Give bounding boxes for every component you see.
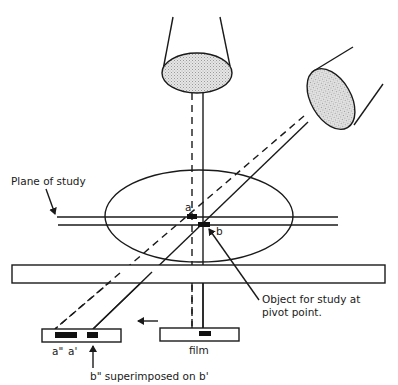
plane-of-study-label: Plane of study <box>11 175 86 187</box>
film-label: film <box>189 344 209 356</box>
tube-side-bottom <box>354 84 383 125</box>
marker-a-double-prime-a-prime <box>55 332 77 338</box>
point-a-marker <box>187 214 197 219</box>
xray-tube-vertical <box>162 17 232 93</box>
film-initial-marker <box>199 331 211 336</box>
xray-tube-angled <box>297 47 383 138</box>
point-a-label: a <box>185 201 191 213</box>
object-label-line2: pivot point. <box>262 306 322 318</box>
table <box>12 265 385 283</box>
tomography-diagram: a b Plane of study Object for study at p… <box>0 0 398 385</box>
point-b-marker <box>198 222 210 227</box>
tube-aperture-vertical <box>162 53 232 93</box>
point-b-label: b <box>216 225 223 237</box>
tube-aperture-angled <box>297 60 365 137</box>
marker-b-superimposed <box>87 332 98 338</box>
label-a-prime: a' <box>68 345 77 357</box>
superimposed-label: b" superimposed on b' <box>90 370 209 382</box>
label-a-double-prime: a" <box>52 345 63 357</box>
tube-side-top <box>312 47 353 72</box>
film-moved <box>42 329 121 342</box>
object-label-line1: Object for study at <box>262 293 360 305</box>
plane-of-study-arrow <box>46 189 55 214</box>
patient-body-ellipse <box>105 170 293 262</box>
